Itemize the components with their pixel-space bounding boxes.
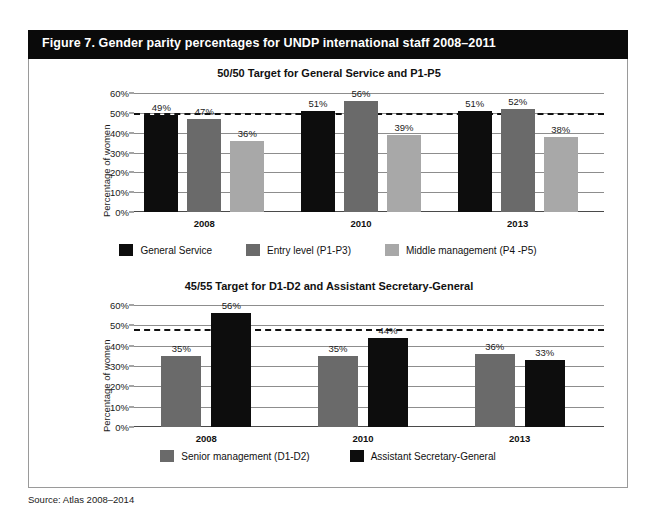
bar-value-label: 52% bbox=[508, 96, 527, 107]
bar bbox=[211, 313, 251, 427]
bar-value-label: 35% bbox=[328, 343, 347, 354]
figure-page: Figure 7. Gender parity percentages for … bbox=[0, 0, 650, 522]
bar-value-label: 49% bbox=[152, 102, 171, 113]
ytick-label: 40% bbox=[110, 127, 129, 138]
bar bbox=[318, 356, 358, 427]
xtick-label-2008: 2008 bbox=[194, 218, 215, 229]
ytick-mark bbox=[129, 152, 134, 153]
legend-label-senior-management: Senior management (D1-D2) bbox=[181, 451, 309, 462]
bar bbox=[144, 115, 178, 212]
figure-title: Figure 7. Gender parity percentages for … bbox=[42, 36, 496, 50]
figure-container: Figure 7. Gender parity percentages for … bbox=[28, 30, 628, 488]
ytick-label: 50% bbox=[110, 320, 129, 331]
legend-swatch-senior-management bbox=[160, 450, 174, 462]
bar-value-label: 38% bbox=[551, 124, 570, 135]
ytick-mark bbox=[129, 427, 134, 428]
chart-1-ylabel: Percentage of women bbox=[101, 125, 112, 217]
target-line bbox=[134, 329, 604, 331]
chart-1-title: 50/50 Target for General Service and P1-… bbox=[29, 67, 629, 79]
xtick-label-2010: 2010 bbox=[350, 218, 371, 229]
ytick-mark bbox=[129, 132, 134, 133]
bar-value-label: 47% bbox=[195, 106, 214, 117]
ytick-mark bbox=[129, 172, 134, 173]
bar-value-label: 44% bbox=[378, 325, 397, 336]
legend-swatch-general-service bbox=[119, 244, 133, 256]
legend-label-middle-management: Middle management (P4 -P5) bbox=[406, 245, 537, 256]
ytick-mark bbox=[129, 345, 134, 346]
bar-value-label: 36% bbox=[485, 341, 504, 352]
ytick-label: 20% bbox=[110, 167, 129, 178]
ytick-mark bbox=[129, 325, 134, 326]
ytick-label: 10% bbox=[110, 401, 129, 412]
chart-2-ylabel: Percentage of women bbox=[101, 340, 112, 432]
xtick-label-2013: 2013 bbox=[507, 218, 528, 229]
bar-value-label: 33% bbox=[535, 347, 554, 358]
ytick-mark bbox=[129, 386, 134, 387]
bar bbox=[161, 356, 201, 427]
legend-label-general-service: General Service bbox=[140, 245, 212, 256]
ytick-label: 60% bbox=[110, 300, 129, 311]
ytick-label: 0% bbox=[115, 207, 129, 218]
bar-value-label: 36% bbox=[238, 128, 257, 139]
legend-item-senior-management: Senior management (D1-D2) bbox=[160, 450, 309, 462]
chart-2-legend: Senior management (D1-D2) Assistant Secr… bbox=[29, 450, 627, 462]
ytick-label: 0% bbox=[115, 422, 129, 433]
ytick-mark bbox=[129, 212, 134, 213]
ytick-label: 10% bbox=[110, 187, 129, 198]
ytick-mark bbox=[129, 93, 134, 94]
bar-value-label: 51% bbox=[308, 98, 327, 109]
bar bbox=[301, 111, 335, 212]
bar-value-label: 39% bbox=[394, 122, 413, 133]
legend-item-entry-level: Entry level (P1-P3) bbox=[246, 244, 351, 256]
ytick-label: 40% bbox=[110, 340, 129, 351]
ytick-mark bbox=[129, 366, 134, 367]
legend-item-middle-management: Middle management (P4 -P5) bbox=[385, 244, 537, 256]
xtick-label-2008: 2008 bbox=[196, 433, 217, 444]
ytick-label: 30% bbox=[110, 361, 129, 372]
bar bbox=[525, 360, 565, 427]
bar-value-label: 35% bbox=[172, 343, 191, 354]
legend-swatch-assistant-secretary-general bbox=[350, 450, 364, 462]
bar-value-label: 51% bbox=[465, 98, 484, 109]
legend-label-assistant-secretary-general: Assistant Secretary-General bbox=[371, 451, 496, 462]
bar bbox=[544, 137, 578, 212]
legend-swatch-middle-management bbox=[385, 244, 399, 256]
ytick-mark bbox=[129, 406, 134, 407]
chart-2-title: 45/55 Target for D1-D2 and Assistant Sec… bbox=[29, 280, 629, 292]
ytick-label: 20% bbox=[110, 381, 129, 392]
legend-item-general-service: General Service bbox=[119, 244, 212, 256]
bar-value-label: 56% bbox=[351, 88, 370, 99]
chart-1-legend: General Service Entry level (P1-P3) Midd… bbox=[29, 244, 627, 256]
source-note: Source: Atlas 2008–2014 bbox=[28, 494, 134, 505]
chart-1-plot-area: 0%10%20%30%40%50%60%49%47%36%200851%56%3… bbox=[134, 93, 604, 212]
bar bbox=[368, 338, 408, 427]
bar bbox=[387, 135, 421, 212]
xtick-label-2013: 2013 bbox=[509, 433, 530, 444]
bar bbox=[230, 141, 264, 212]
figure-header-bar: Figure 7. Gender parity percentages for … bbox=[28, 30, 628, 59]
ytick-label: 60% bbox=[110, 88, 129, 99]
legend-swatch-entry-level bbox=[246, 244, 260, 256]
bar bbox=[344, 101, 378, 212]
bar bbox=[458, 111, 492, 212]
ytick-mark bbox=[129, 192, 134, 193]
bar-value-label: 56% bbox=[222, 300, 241, 311]
ytick-label: 30% bbox=[110, 147, 129, 158]
bar bbox=[187, 119, 221, 212]
legend-item-assistant-secretary-general: Assistant Secretary-General bbox=[350, 450, 496, 462]
ytick-label: 50% bbox=[110, 107, 129, 118]
gridline-60pct bbox=[134, 305, 604, 306]
bar bbox=[501, 109, 535, 212]
chart-general-service-p1p5: 50/50 Target for General Service and P1-… bbox=[29, 67, 629, 267]
legend-label-entry-level: Entry level (P1-P3) bbox=[267, 245, 351, 256]
chart-2-plot-area: 0%10%20%30%40%50%60%35%56%200835%44%2010… bbox=[134, 305, 604, 427]
bar bbox=[475, 354, 515, 427]
ytick-mark bbox=[129, 305, 134, 306]
gridline-50pct bbox=[134, 325, 604, 326]
xtick-label-2010: 2010 bbox=[352, 433, 373, 444]
